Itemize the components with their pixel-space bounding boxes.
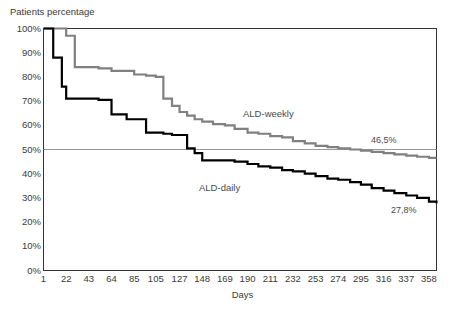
x-tick-64: 64 (106, 274, 117, 284)
x-tick-169: 169 (217, 274, 233, 284)
x-tick-43: 43 (84, 274, 95, 284)
x-tick-316: 316 (376, 274, 392, 284)
series-label-ald-weekly: ALD-weekly (243, 108, 294, 119)
x-tick-295: 295 (353, 274, 369, 284)
x-tick-127: 127 (172, 274, 188, 284)
x-tick-211: 211 (263, 274, 278, 284)
x-axis-title: Days (0, 289, 449, 300)
x-tick-337: 337 (398, 274, 414, 284)
x-tick-358: 358 (421, 274, 437, 284)
survival-curve-chart: Patients percentage 0%10%20%30%40%50%60%… (0, 0, 449, 321)
x-tick-232: 232 (285, 274, 301, 284)
endpoint-label-ald-daily: 27,8% (391, 205, 417, 215)
x-tick-190: 190 (240, 274, 256, 284)
x-tick-253: 253 (308, 274, 324, 284)
x-tick-105: 105 (148, 274, 164, 284)
x-tick-274: 274 (330, 274, 346, 284)
x-axis-tick-labels: 1224364851051271481691902112322532742953… (0, 0, 449, 321)
x-tick-85: 85 (129, 274, 140, 284)
series-label-ald-daily: ALD-daily (199, 182, 240, 193)
endpoint-label-ald-weekly: 46,5% (371, 135, 397, 145)
x-tick-148: 148 (194, 274, 210, 284)
x-tick-1: 1 (41, 274, 46, 284)
x-tick-22: 22 (61, 274, 72, 284)
